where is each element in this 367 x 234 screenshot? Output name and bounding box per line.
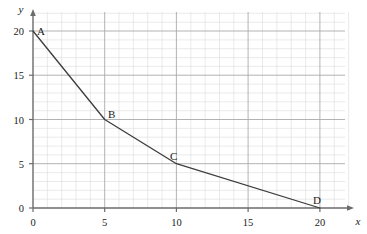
plot-area: 0 5 10 15 20 0 5 10 15 20 y x A B C D	[0, 0, 367, 234]
line-chart: 0 5 10 15 20 0 5 10 15 20 y x A B C D	[0, 0, 367, 234]
y-tick-label-5: 5	[19, 159, 24, 170]
x-axis-label: x	[355, 215, 361, 227]
grid-major-vertical	[105, 12, 320, 208]
y-tick-label-20: 20	[14, 26, 25, 37]
point-label-b: B	[108, 108, 115, 120]
y-tick-label-0: 0	[19, 203, 24, 214]
x-tick-label-5: 5	[102, 217, 107, 228]
grid-minor-horizontal	[33, 13, 345, 199]
point-label-c: C	[170, 150, 177, 162]
y-axis	[30, 9, 36, 208]
point-label-a: A	[37, 25, 45, 37]
y-tick-label-10: 10	[14, 115, 25, 126]
x-tick-label-15: 15	[243, 217, 254, 228]
grid-minor-vertical	[47, 12, 348, 208]
y-tick-label-15: 15	[14, 70, 25, 81]
grid-major-horizontal	[33, 31, 345, 164]
x-tick-label-20: 20	[315, 217, 326, 228]
y-axis-label: y	[18, 3, 24, 15]
x-tick-label-10: 10	[171, 217, 182, 228]
x-tick-label-0: 0	[30, 217, 35, 228]
point-label-d: D	[313, 194, 321, 206]
